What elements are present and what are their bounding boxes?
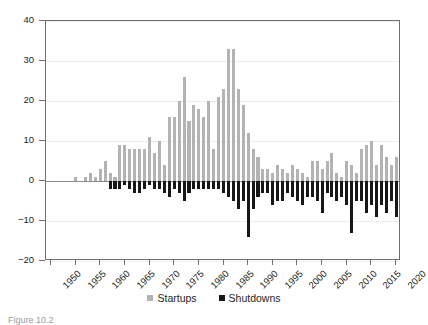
bar-startups-1990 [247,133,250,181]
bar-startups-2019 [390,165,393,181]
y-tick-mark [39,20,45,21]
bar-startups-1984 [217,97,220,181]
y-tick-mark [39,180,45,181]
legend-label-startups: Startups [157,292,196,304]
bar-startups-1960 [99,169,102,181]
bar-startups-1987 [232,49,235,181]
bar-shutdowns-2002 [306,181,309,197]
bar-shutdowns-2017 [380,181,383,205]
bar-startups-1968 [138,149,141,181]
x-tick-mark [50,260,51,265]
bar-startups-1977 [183,77,186,181]
bar-shutdowns-2003 [311,181,314,197]
y-tick-mark [39,260,45,261]
bar-startups-1959 [94,177,97,181]
x-tick-label: 1995 [282,268,305,291]
bar-shutdowns-2014 [365,181,368,213]
bar-startups-2017 [380,145,383,181]
bar-startups-1969 [143,149,146,181]
x-tick-mark [321,260,322,265]
bar-startups-1970 [148,137,151,181]
bar-startups-1991 [252,149,255,181]
bar-shutdowns-1982 [207,181,210,189]
bar-shutdowns-1976 [178,181,181,193]
bar-startups-1966 [128,149,131,181]
bar-startups-1955 [74,177,77,181]
bar-startups-1989 [242,105,245,181]
y-tick-mark [39,100,45,101]
bar-startups-1992 [256,157,259,181]
bar-shutdowns-1968 [138,181,141,193]
bar-startups-2006 [326,161,329,181]
x-tick-label: 1980 [208,268,231,291]
x-tick-label: 2005 [331,268,354,291]
bar-shutdowns-2008 [335,181,338,201]
bar-startups-1979 [192,105,195,181]
bar-shutdowns-1989 [242,181,245,201]
bar-shutdowns-1979 [192,181,195,189]
bar-shutdowns-1986 [227,181,230,197]
y-tick-label: 40 [0,15,34,25]
bar-startups-1976 [178,101,181,181]
bar-startups-1996 [276,165,279,181]
bar-startups-1973 [163,165,166,181]
bar-startups-2008 [335,173,338,181]
x-tick-mark [223,260,224,265]
bar-shutdowns-1994 [266,181,269,193]
bar-startups-1997 [281,169,284,181]
x-tick-mark [198,260,199,265]
shutdowns-swatch-icon [219,295,225,301]
bar-shutdowns-1971 [153,181,156,189]
bar-shutdowns-2012 [355,181,358,201]
bar-startups-1964 [118,145,121,181]
bar-startups-1982 [207,101,210,181]
x-tick-label: 1970 [159,268,182,291]
bar-startups-2011 [350,165,353,181]
x-tick-mark [296,260,297,265]
bar-shutdowns-1981 [202,181,205,189]
bar-shutdowns-1984 [217,181,220,189]
bar-shutdowns-1985 [222,181,225,193]
x-tick-label: 1955 [85,268,108,291]
x-tick-mark [370,260,371,265]
x-tick-mark [99,260,100,265]
x-tick-mark [149,260,150,265]
x-tick-mark [124,260,125,265]
chart-plot-area [45,20,400,260]
bar-startups-2020 [395,157,398,181]
bar-shutdowns-1999 [291,181,294,197]
bar-shutdowns-2015 [370,181,373,205]
bar-shutdowns-1962 [109,181,112,189]
x-tick-mark [247,260,248,265]
bar-startups-2004 [316,161,319,181]
x-tick-label: 1965 [134,268,157,291]
bar-shutdowns-2001 [301,181,304,205]
bar-startups-1999 [291,165,294,181]
bar-shutdowns-1988 [237,181,240,209]
bar-startups-1985 [222,89,225,181]
bar-startups-1988 [237,89,240,181]
bar-shutdowns-2000 [296,181,299,201]
bar-shutdowns-1969 [143,181,146,189]
y-tick-label: 30 [0,55,34,65]
bar-shutdowns-1990 [247,181,250,237]
bar-startups-2016 [375,165,378,181]
x-tick-label: 1990 [257,268,280,291]
bar-startups-2014 [365,145,368,181]
bar-startups-1998 [286,173,289,181]
bar-startups-2005 [321,169,324,181]
y-tick-mark [39,140,45,141]
bar-shutdowns-2019 [390,181,393,201]
bar-shutdowns-2016 [375,181,378,217]
bar-startups-1972 [158,141,161,181]
x-tick-mark [395,260,396,265]
bars-layer [46,21,399,259]
x-tick-mark [272,260,273,265]
bar-startups-1995 [271,173,274,181]
legend-item-shutdowns[interactable]: Shutdowns [219,292,281,304]
bar-shutdowns-1997 [281,181,284,201]
legend-item-startups[interactable]: Startups [147,292,196,304]
bar-shutdowns-2006 [326,181,329,193]
bar-shutdowns-2007 [330,181,333,197]
y-tick-label: −10 [0,215,34,225]
